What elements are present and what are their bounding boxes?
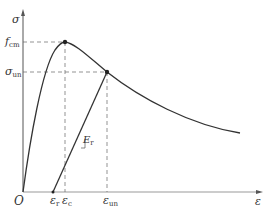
envelope-curve: [23, 42, 240, 192]
Er-annotation: Er: [83, 135, 94, 147]
unloading-line: [53, 72, 107, 192]
epsilon-un-label: εun: [103, 195, 118, 208]
peak-point: [63, 40, 67, 44]
sigma-un-label: σun: [5, 66, 22, 79]
x-axis-arrow-icon: [256, 190, 263, 194]
origin-label: O: [14, 195, 24, 207]
epsilon-c-label: εc: [62, 195, 72, 208]
epsilon-r-label: εr: [50, 195, 59, 208]
stress-strain-chart: [0, 0, 272, 211]
unloading-point: [105, 70, 109, 74]
y-axis-label: σ: [12, 14, 20, 25]
y-axis-arrow-icon: [21, 9, 25, 16]
x-axis-label: ε: [255, 196, 261, 207]
fcm-label: fcm: [5, 36, 20, 49]
